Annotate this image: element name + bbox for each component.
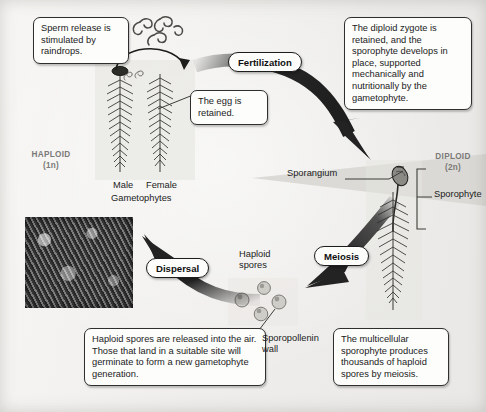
moss-field-photo (25, 217, 133, 308)
sporopollenin-wall-label: Sporopollenin wall (262, 333, 319, 356)
callout-spores-released-text: Haploid spores are released into the air… (92, 334, 256, 379)
egg-leader-line (158, 93, 194, 111)
meiosis-label: Meiosis (324, 251, 359, 262)
male-gametophyte-label: Male (113, 180, 133, 191)
female-gametophyte-label: Female (146, 180, 177, 191)
callout-zygote-retained-text: The diploid zygote is retained, and the … (352, 23, 448, 103)
callout-sporophyte-produces-text: The multicellular sporophyte produces th… (341, 334, 428, 379)
diploid-label-text: DIPLOID (424, 152, 482, 163)
callout-egg-retained: The egg is retained. (190, 90, 268, 125)
sporophyte-bracket (415, 168, 429, 230)
diploid-ploidy-label: DIPLOID (2n) (424, 152, 482, 173)
female-label-text: Female (146, 180, 177, 190)
sporophyte-label-text: Sporophyte (434, 189, 482, 199)
stage-pill-meiosis: Meiosis (314, 246, 369, 266)
haploid-spores-label: Haploid spores (239, 249, 271, 272)
callout-sperm-release: Sperm release is stimulated by raindrops… (33, 17, 129, 64)
haploid-label-text: HAPLOID (14, 150, 88, 161)
diploid-ploidy-value: (2n) (424, 163, 482, 174)
sporopollenin-line1: Sporopollenin (262, 333, 319, 344)
haploid-ploidy-value: (1n) (14, 161, 88, 172)
dispersal-label: Dispersal (156, 263, 199, 274)
sporopollenin-line2: wall (262, 344, 319, 355)
callout-zygote-retained: The diploid zygote is retained, and the … (344, 17, 472, 110)
callout-egg-retained-text: The egg is retained. (198, 96, 241, 118)
sporangium-label-text: Sporangium (287, 168, 337, 178)
callout-spores-released: Haploid spores are released into the air… (84, 328, 266, 386)
male-label-text: Male (113, 180, 133, 190)
haploid-ploidy-label: HAPLOID (1n) (14, 150, 88, 171)
gametophytes-label-text: Gametophytes (111, 193, 171, 203)
fertilization-label: Fertilization (238, 57, 292, 68)
sporangium-label: Sporangium (287, 168, 337, 179)
moss-life-cycle-figure: HAPLOID (1n) DIPLOID (2n) Sperm release … (0, 0, 486, 412)
sporophyte-leader-line (417, 195, 433, 199)
haploid-spores-line1: Haploid (239, 249, 271, 260)
sporophyte-label: Sporophyte (434, 189, 482, 200)
stage-pill-dispersal: Dispersal (146, 258, 209, 278)
stage-pill-fertilization: Fertilization (228, 52, 302, 72)
callout-sperm-release-text: Sperm release is stimulated by raindrops… (41, 23, 111, 56)
callout-sporophyte-produces: The multicellular sporophyte produces th… (333, 328, 449, 386)
haploid-spores-line2: spores (239, 260, 271, 271)
gametophytes-label: Gametophytes (111, 193, 171, 204)
sporangium-leader-line (345, 168, 407, 182)
